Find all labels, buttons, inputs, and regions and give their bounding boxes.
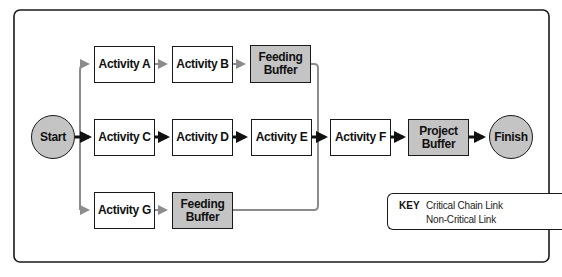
legend-key: KEY Critical Chain Link Non-Critical Lin… bbox=[387, 193, 562, 230]
feeding-buffer-top: Feeding Buffer bbox=[250, 45, 311, 83]
feeding-buffer-bottom: Feeding Buffer bbox=[172, 192, 233, 229]
key-non-critical-label: Non-Critical Link bbox=[426, 214, 496, 225]
activity-a: Activity A bbox=[94, 46, 155, 83]
key-critical-label: Critical Chain Link bbox=[426, 200, 503, 211]
activity-d: Activity D bbox=[172, 119, 233, 156]
non-critical-link bbox=[80, 137, 88, 210]
activity-e: Activity E bbox=[251, 119, 312, 156]
finish-node: Finish bbox=[489, 115, 533, 159]
activity-b: Activity B bbox=[172, 46, 233, 83]
activity-f: Activity F bbox=[330, 119, 391, 156]
activity-g: Activity G bbox=[94, 192, 155, 229]
activity-c: Activity C bbox=[94, 119, 155, 156]
start-node: Start bbox=[31, 115, 75, 159]
project-buffer: Project Buffer bbox=[408, 119, 469, 156]
key-title: KEY bbox=[399, 200, 420, 211]
